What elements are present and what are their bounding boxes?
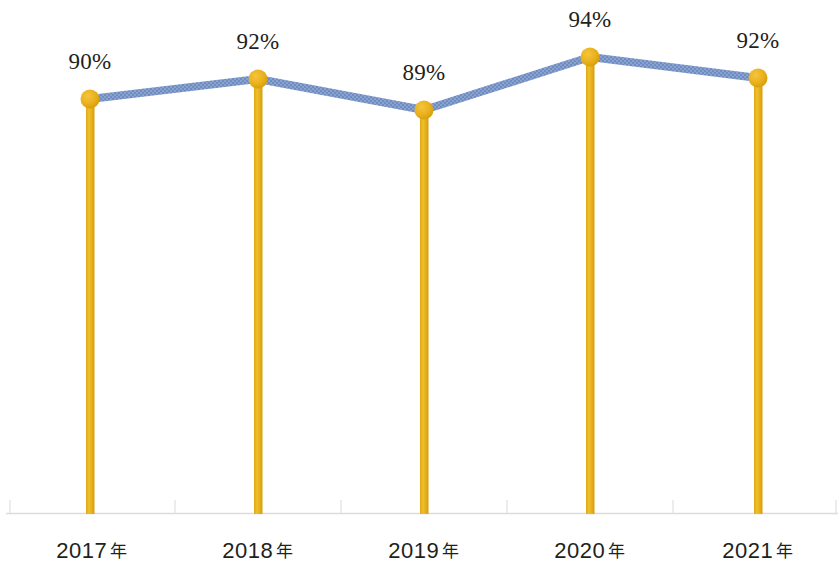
data-label: 92% — [237, 30, 280, 53]
drop-bars — [86, 57, 763, 514]
drop-bar — [420, 110, 429, 514]
chart-container: 90% 92% 89% 94% 92% 2017年 2018年 2019年 20… — [0, 0, 838, 567]
x-tick-year: 2019 — [388, 538, 439, 563]
x-tick-unit: 年 — [110, 542, 128, 561]
drop-bar — [586, 57, 595, 514]
x-tick-year: 2017 — [56, 538, 107, 563]
data-point-marker[interactable] — [415, 101, 434, 120]
data-point-marker[interactable] — [81, 90, 100, 109]
x-tick-year: 2021 — [722, 538, 773, 563]
data-point-marker[interactable] — [581, 48, 600, 67]
x-tick-label-2017: 2017年 — [56, 540, 127, 562]
x-tick-unit: 年 — [276, 542, 294, 561]
x-tick-year: 2020 — [554, 538, 605, 563]
x-tick-unit: 年 — [608, 542, 626, 561]
x-tick-year: 2018 — [222, 538, 273, 563]
data-label: 90% — [69, 50, 112, 73]
drop-bar — [86, 99, 95, 514]
x-tick-unit: 年 — [776, 542, 794, 561]
chart-svg — [0, 0, 838, 567]
data-point-marker[interactable] — [249, 70, 268, 89]
drop-bar — [754, 78, 763, 514]
x-tick-label-2018: 2018年 — [222, 540, 293, 562]
data-label: 89% — [403, 61, 446, 84]
data-label: 94% — [569, 8, 612, 31]
x-tick-label-2019: 2019年 — [388, 540, 459, 562]
data-point-marker[interactable] — [749, 69, 768, 88]
chart-plot-area — [0, 0, 838, 567]
drop-bar — [254, 79, 263, 514]
data-label: 92% — [737, 29, 780, 52]
x-tick-label-2021: 2021年 — [722, 540, 793, 562]
x-tick-unit: 年 — [442, 542, 460, 561]
x-tick-label-2020: 2020年 — [554, 540, 625, 562]
